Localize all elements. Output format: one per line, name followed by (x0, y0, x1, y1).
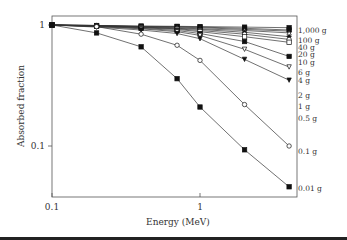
series-line (52, 25, 289, 187)
marker-triangle-down (287, 78, 291, 82)
marker-triangle-down (198, 37, 202, 41)
marker-circle (94, 24, 98, 28)
x-tick-label: 1 (197, 202, 203, 212)
marker-square (242, 39, 246, 43)
marker-square (50, 23, 54, 27)
series-label: 1 g (298, 102, 310, 111)
series-label: 1,000 g (298, 26, 327, 35)
plot-frame (52, 16, 297, 197)
x-tick-label: 0.1 (45, 202, 59, 212)
marker-square (139, 45, 143, 49)
series-label: 0.5 g (298, 114, 317, 123)
x-axis-label: Energy (MeV) (146, 217, 210, 227)
marker-square (287, 40, 291, 44)
series-line (52, 25, 289, 146)
series-label: 10 g (298, 58, 315, 67)
series-label: 0.1 g (298, 147, 317, 156)
marker-circle (198, 58, 202, 62)
marker-circle (242, 102, 246, 106)
marker-square (242, 148, 246, 152)
marker-square (198, 105, 202, 109)
y-axis-label: Absorbed fraction (16, 65, 26, 148)
y-tick-label: 0.1 (31, 141, 45, 151)
y-tick-label: 1 (39, 20, 45, 30)
absorbed-fraction-chart: 0.1110.1Energy (MeV)Absorbed fraction1,0… (0, 0, 347, 240)
marker-triangle-down (242, 47, 246, 51)
marker-circle (175, 43, 179, 47)
series-label: 2 g (298, 91, 310, 100)
series-label: 4 g (298, 76, 310, 85)
marker-triangle-down (242, 57, 246, 61)
marker-square (94, 31, 98, 35)
marker-square (287, 185, 291, 189)
marker-circle (139, 32, 143, 36)
marker-circle (287, 144, 291, 148)
marker-triangle-down (287, 65, 291, 69)
marker-square (287, 54, 291, 58)
marker-square (242, 35, 246, 39)
series-label: 0.01 g (298, 184, 322, 193)
marker-square (175, 76, 179, 80)
